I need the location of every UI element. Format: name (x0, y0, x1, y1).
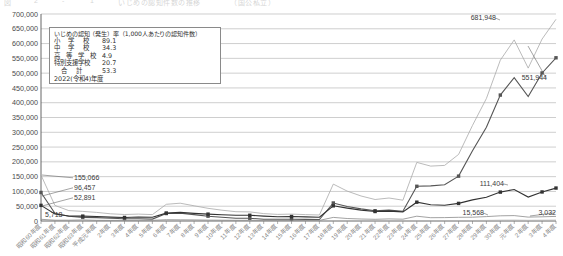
chart-container: 図 2 - 1 いじめの認知件数の推移 （国公私立） 700,000650,00… (0, 0, 563, 256)
series-marker-2 (415, 200, 418, 203)
y-axis-tick-label: 50,000 (16, 202, 38, 211)
x-axis-tick-label: 3年度 (109, 223, 126, 240)
series-marker-2 (540, 190, 543, 193)
x-axis-tick-label: 7年度 (165, 223, 182, 240)
x-axis-tick-label: 2年度 (95, 223, 112, 240)
data-label-total-end: 681,948 (471, 14, 496, 21)
series-marker-2 (206, 212, 209, 215)
y-axis-tick-label: 550,000 (12, 54, 38, 63)
x-axis-tick-label: 30年度 (483, 223, 502, 242)
x-axis-tick-label: 4年度 (541, 223, 558, 240)
y-axis-tick-label: 600,000 (12, 39, 38, 48)
legend-box: いじめの認知（発生）率（1,000人あたりの認知件数） 小 学 校89.1 中 … (49, 27, 221, 84)
x-axis-tick-label: 元年度 (497, 223, 515, 241)
leader-line (42, 188, 73, 196)
y-axis-tick-label: 700,000 (12, 10, 38, 19)
y-axis-tick-label: 200,000 (12, 157, 38, 166)
data-label-total-start: 155,066 (74, 174, 99, 181)
series-marker-2 (81, 214, 84, 217)
series-marker-1 (415, 185, 418, 188)
x-axis-tick-label: 5年度 (137, 223, 154, 240)
data-label-juniorhigh-start: 52,891 (74, 194, 96, 201)
series-marker-2 (39, 204, 42, 207)
series-marker-2 (554, 186, 557, 189)
legend-value-total: 53.3 (102, 68, 116, 76)
x-axis-tick-label: 8年度 (179, 223, 196, 240)
series-marker-2 (123, 216, 126, 219)
x-axis-tick-label: 3年度 (527, 223, 544, 240)
series-marker-2 (457, 202, 460, 205)
series-marker-1 (554, 56, 557, 59)
y-axis-tick-label: 300,000 (12, 128, 38, 137)
series-marker-2 (499, 190, 502, 193)
data-label-highschool-end: 15,568 (463, 209, 485, 216)
series-marker-1 (499, 93, 502, 96)
legend-footer: 2022(令和4)年度 (54, 76, 217, 84)
y-axis-tick-label: 350,000 (12, 113, 38, 122)
data-label-highschool-start: 5,718 (45, 211, 63, 218)
series-marker-2 (290, 215, 293, 218)
series-marker-2 (332, 204, 335, 207)
y-axis-tick-label: 150,000 (12, 172, 38, 181)
x-axis-tick-label: 4年度 (123, 223, 140, 240)
series-marker-1 (248, 217, 251, 220)
data-label-juniorhigh-end: 111,404 (480, 180, 504, 187)
series-marker-2 (373, 210, 376, 213)
y-axis-tick-label: 100,000 (12, 187, 38, 196)
x-axis-tick-label: 6年度 (151, 223, 168, 240)
y-axis-tick-label: 450,000 (12, 84, 38, 93)
y-axis-tick-label: 500,000 (12, 69, 38, 78)
series-marker-1 (457, 174, 460, 177)
series-marker-1 (39, 191, 42, 194)
data-label-elementary-end: 551,944 (522, 74, 547, 81)
series-marker-2 (165, 211, 168, 214)
y-axis-tick-label: 250,000 (12, 143, 38, 152)
y-axis-tick-label: 400,000 (12, 98, 38, 107)
y-axis-tick-label: 650,000 (12, 24, 38, 33)
series-marker-2 (248, 214, 251, 217)
data-label-specialneeds-end: 3,032 (538, 209, 556, 216)
x-axis-tick-label: 2年度 (513, 223, 530, 240)
data-label-elementary-start: 96,457 (74, 184, 96, 191)
